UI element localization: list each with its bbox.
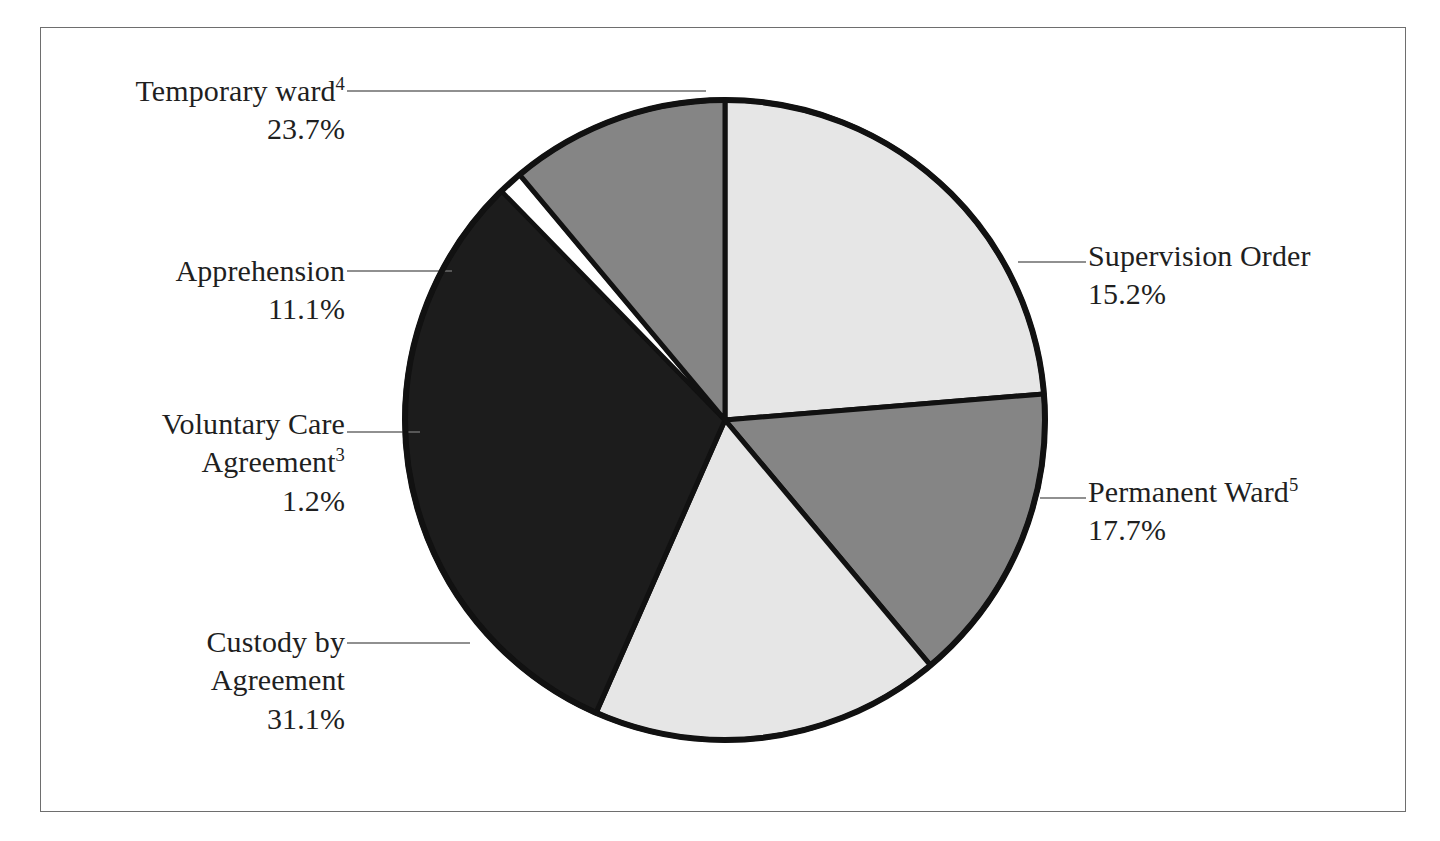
slice-label-apprehension: Apprehension 11.1% [98, 252, 345, 329]
slice-label-custody-by-agreement: Custody by Agreement 31.1% [95, 623, 345, 738]
footnote-marker-5: 5 [1289, 474, 1298, 495]
slice-label-permanent-ward: Permanent Ward5 17.7% [1088, 473, 1388, 550]
slice-label-voluntary-care-line1: Voluntary Care [80, 405, 345, 443]
slice-value-temporary-ward: 23.7% [95, 110, 345, 148]
slice-label-supervision-order-text: Supervision Order [1088, 237, 1388, 275]
slice-value-apprehension: 11.1% [98, 290, 345, 328]
slice-label-voluntary-care-agreement: Voluntary Care Agreement3 1.2% [80, 405, 345, 520]
slice-value-custody: 31.1% [95, 700, 345, 738]
slice-label-permanent-ward-text: Permanent Ward5 [1088, 473, 1388, 511]
slice-label-voluntary-care-line2: Agreement3 [80, 443, 345, 481]
pie-chart-figure: Temporary ward4 23.7% Apprehension 11.1%… [0, 0, 1440, 841]
slice-value-voluntary-care: 1.2% [80, 482, 345, 520]
slice-label-apprehension-text: Apprehension [98, 252, 345, 290]
slice-label-custody-line1: Custody by [95, 623, 345, 661]
pie-slice-temporary-ward[interactable] [725, 100, 1044, 420]
slice-label-custody-line2: Agreement [95, 661, 345, 699]
slice-value-supervision-order: 15.2% [1088, 275, 1388, 313]
slice-value-permanent-ward: 17.7% [1088, 511, 1388, 549]
footnote-marker-4: 4 [336, 73, 345, 94]
slice-label-supervision-order: Supervision Order 15.2% [1088, 237, 1388, 314]
slice-label-temporary-ward: Temporary ward4 23.7% [95, 72, 345, 149]
pie-slices [405, 100, 1045, 740]
slice-label-temporary-ward-text: Temporary ward4 [95, 72, 345, 110]
footnote-marker-3: 3 [336, 444, 345, 465]
